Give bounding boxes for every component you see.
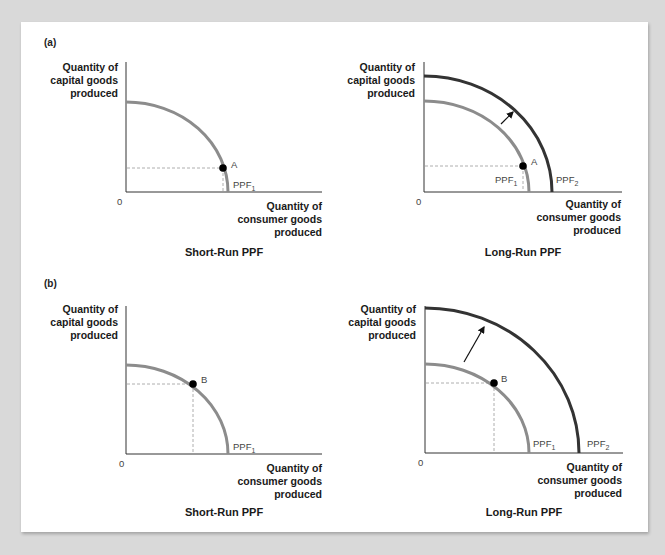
point-a <box>219 164 227 172</box>
y-axis-label-line3: produced <box>70 87 118 99</box>
x-axis-label-line2: consumer goods <box>536 211 621 223</box>
section-label-b: (b) <box>44 278 57 289</box>
panel-b-long-run: Quantity of capital goods produced 0 B P… <box>348 303 623 518</box>
y-axis-label-line2: capital goods <box>347 74 415 86</box>
y-axis-label-line1: Quantity of <box>360 61 416 73</box>
panel-title: Short-Run PPF <box>185 246 263 258</box>
ppf1-label: PPF1 <box>495 174 517 187</box>
x-axis-label-line1: Quantity of <box>566 198 622 210</box>
point-a <box>519 162 527 170</box>
panel-a-long-run: Quantity of capital goods produced 0 A P… <box>347 61 622 258</box>
y-axis-label-line3: produced <box>367 87 415 99</box>
origin-label: 0 <box>117 196 122 207</box>
origin-label: 0 <box>416 196 421 207</box>
point-a-label: A <box>531 156 538 167</box>
ppf-figure: (a) (b) Quantity of capital goods produc… <box>0 0 665 555</box>
y-axis-label-line1: Quantity of <box>361 303 417 315</box>
section-label-a: (a) <box>44 37 56 48</box>
origin-label: 0 <box>119 458 124 469</box>
y-axis-label-line3: produced <box>70 329 118 341</box>
y-axis-label-line1: Quantity of <box>63 61 119 73</box>
shift-arrow <box>501 112 513 124</box>
shift-arrow <box>464 327 484 362</box>
x-axis-label-line3: produced <box>274 488 322 500</box>
point-a-label: A <box>231 159 238 170</box>
x-axis-label-line3: produced <box>573 224 621 236</box>
x-axis-label-line1: Quantity of <box>267 462 323 474</box>
x-axis-label-line2: consumer goods <box>237 475 322 487</box>
point-b <box>490 379 498 387</box>
point-b-label: B <box>501 373 507 384</box>
point-b-label: B <box>201 374 207 385</box>
ppf2-curve <box>424 76 552 192</box>
panel-b-short-run: Quantity of capital goods produced 0 B P… <box>50 303 322 518</box>
ppf1-curve <box>126 365 228 454</box>
y-axis-label-line2: capital goods <box>50 316 118 328</box>
panel-title: Long-Run PPF <box>486 506 563 518</box>
x-axis-label-line1: Quantity of <box>267 200 323 212</box>
ppf2-label: PPF2 <box>556 174 578 187</box>
x-axis-label-line2: consumer goods <box>537 474 622 486</box>
ppf1-label: PPF1 <box>233 441 255 454</box>
panel-title: Short-Run PPF <box>185 506 263 518</box>
x-axis-label-line2: consumer goods <box>237 213 322 225</box>
panel-a-short-run: Quantity of capital goods produced 0 A P… <box>50 61 322 258</box>
ppf1-curve <box>126 102 228 192</box>
panel-title: Long-Run PPF <box>485 246 562 258</box>
y-axis-label-line2: capital goods <box>50 74 118 86</box>
point-b <box>189 380 197 388</box>
y-axis-label-line3: produced <box>368 329 416 341</box>
y-axis-label-line2: capital goods <box>348 316 416 328</box>
ppf1-label: PPF1 <box>233 179 255 192</box>
ppf2-label: PPF2 <box>587 438 609 451</box>
x-axis-label-line3: produced <box>574 487 622 499</box>
ppf1-curve <box>425 364 529 453</box>
x-axis-label-line3: produced <box>274 226 322 238</box>
origin-label: 0 <box>418 457 423 468</box>
ppf1-label: PPF1 <box>533 438 555 451</box>
y-axis-label-line1: Quantity of <box>63 303 119 315</box>
x-axis-label-line1: Quantity of <box>567 461 623 473</box>
